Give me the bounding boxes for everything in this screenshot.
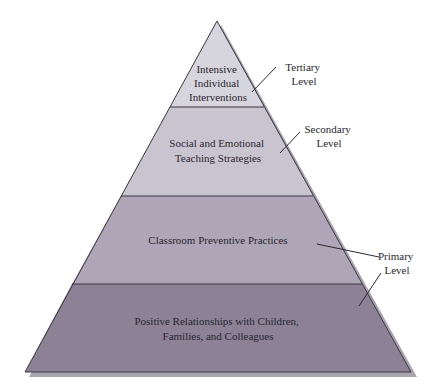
- tier-3-label: Classroom Preventive Practices: [148, 234, 287, 246]
- tier-base-shape: [25, 284, 411, 372]
- tertiary-callout: Tertiary Level: [285, 61, 322, 87]
- primary-callout: Primary Level: [378, 250, 416, 276]
- secondary-callout: Secondary Level: [304, 123, 353, 149]
- tier-top-label: Intensive Individual Interventions: [189, 63, 247, 103]
- pyramid-diagram: Intensive Individual Interventions Socia…: [0, 0, 445, 392]
- tertiary-leader: [252, 67, 276, 92]
